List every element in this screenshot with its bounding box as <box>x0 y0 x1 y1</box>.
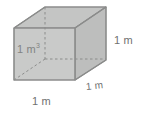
volume-label-exponent: 3 <box>36 42 40 49</box>
volume-label: 1 m3 <box>17 42 40 55</box>
cube-diagram <box>0 0 141 115</box>
volume-label-value: 1 m <box>17 43 36 55</box>
width-label: 1 m <box>32 96 51 107</box>
height-label: 1 m <box>114 35 133 46</box>
cube-volume-figure: 1 m3 1 m 1 m 1 m <box>0 0 141 115</box>
depth-label: 1 m <box>85 80 103 92</box>
